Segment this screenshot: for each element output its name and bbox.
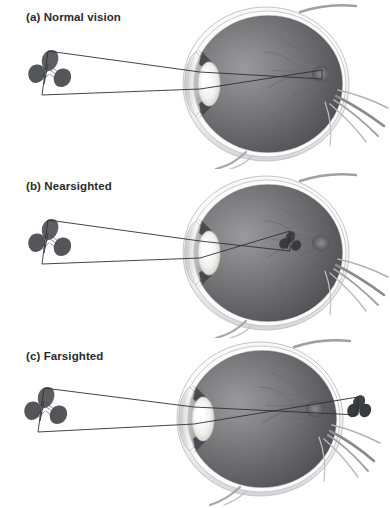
object-leaf [24,387,67,424]
eye-focus-figure: (a) Normal vision [0,0,390,508]
panel-nearsighted: (b) Nearsighted [0,169,390,338]
optic-disc [312,66,330,82]
object-leaf [28,219,71,256]
optic-disc [312,235,330,251]
eye-diagram-nearsighted [0,169,390,338]
panel-normal-vision: (a) Normal vision [0,0,390,169]
eye-diagram-farsighted [0,339,390,508]
object-leaf [28,50,71,87]
panel-farsighted: (c) Farsighted [0,339,390,508]
eye-diagram-normal-vision [0,0,390,169]
